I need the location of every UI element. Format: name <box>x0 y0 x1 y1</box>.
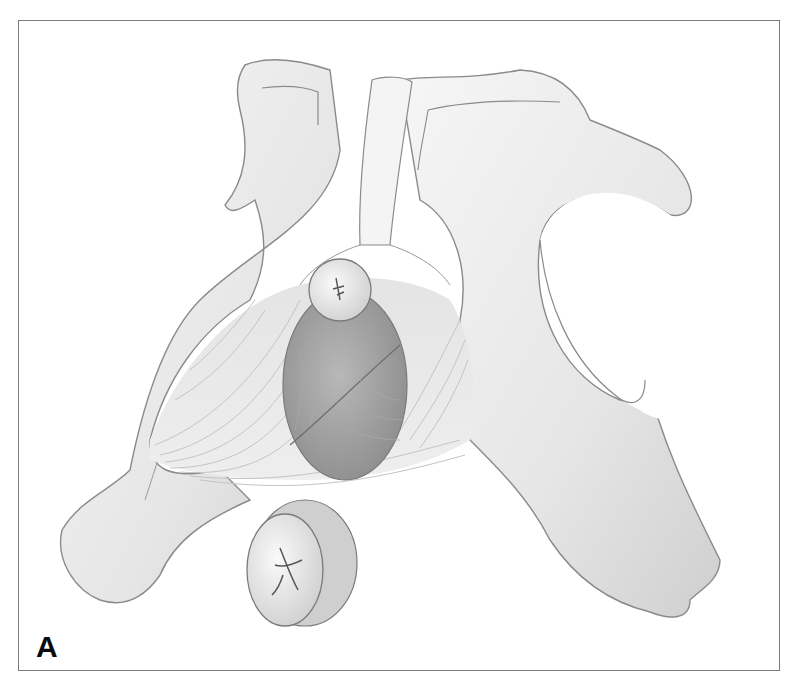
urethra <box>309 259 371 321</box>
anal-canal <box>247 500 357 626</box>
pelvic-floor-illustration <box>0 0 799 697</box>
panel-label: A <box>36 632 58 662</box>
